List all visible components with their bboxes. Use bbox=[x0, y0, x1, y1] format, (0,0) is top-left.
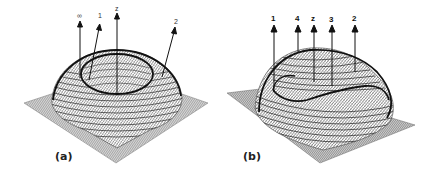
arrow-label-3: 3 bbox=[329, 15, 334, 24]
panel-label-b: (b) bbox=[243, 150, 261, 163]
arrow-label-z: z bbox=[115, 5, 119, 12]
arrow-label-infinity: ∞ bbox=[77, 12, 82, 19]
figure-panel-a: ∞ 1 z 2 (a) bbox=[0, 0, 214, 171]
surface-plot-a: ∞ 1 z 2 (a) bbox=[0, 0, 214, 171]
arrow-label-z: z bbox=[311, 14, 315, 23]
arrow-label-1: 1 bbox=[98, 12, 102, 19]
panel-label-a: (a) bbox=[55, 150, 72, 163]
arrow-label-4: 4 bbox=[295, 14, 300, 23]
surface-plot-b: 1 4 z 3 2 (b) bbox=[215, 0, 429, 171]
arrow-label-2: 2 bbox=[352, 14, 357, 23]
arrow-label-1: 1 bbox=[271, 14, 276, 23]
arrow-label-2: 2 bbox=[174, 18, 178, 25]
figure-panel-b: 1 4 z 3 2 (b) bbox=[215, 0, 429, 171]
